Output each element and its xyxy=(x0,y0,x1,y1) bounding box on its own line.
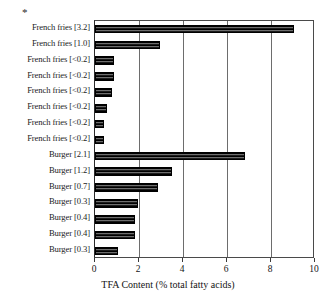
bar xyxy=(95,56,114,65)
gridline xyxy=(183,21,184,257)
x-tick xyxy=(182,258,183,262)
category-label: French fries [1.0] xyxy=(32,39,90,48)
x-tick-label: 6 xyxy=(224,264,229,274)
category-label: French fries [<0.2] xyxy=(27,71,90,80)
bar xyxy=(95,183,158,192)
category-label: Burger [0.7] xyxy=(49,182,90,191)
gridline xyxy=(271,21,272,257)
x-tick-label: 8 xyxy=(268,264,273,274)
category-label: Burger [0.3] xyxy=(49,197,90,206)
plot-area xyxy=(94,20,314,258)
category-axis-labels: French fries [3.2]French fries [1.0]Fren… xyxy=(0,20,92,258)
gridline xyxy=(227,21,228,257)
x-tick-label: 10 xyxy=(309,264,319,274)
bar xyxy=(95,247,118,256)
category-label: Burger [0.4] xyxy=(49,213,90,222)
bar xyxy=(95,215,135,224)
category-label: French fries [<0.2] xyxy=(27,102,90,111)
bar xyxy=(95,120,104,129)
bar xyxy=(95,152,245,161)
category-label: Burger [2.1] xyxy=(49,150,90,159)
x-axis-title: TFA Content (% total fatty acids) xyxy=(0,279,336,291)
x-tick xyxy=(138,258,139,262)
x-tick-label: 4 xyxy=(180,264,185,274)
category-label: French fries [<0.2] xyxy=(27,55,90,64)
category-label: French fries [<0.2] xyxy=(27,118,90,127)
category-label: Burger [0.4] xyxy=(49,229,90,238)
figure-bar-chart: * French fries [3.2]French fries [1.0]Fr… xyxy=(0,0,336,303)
gridline xyxy=(139,21,140,257)
x-tick xyxy=(314,258,315,262)
bar xyxy=(95,104,107,113)
x-tick xyxy=(270,258,271,262)
x-tick-label: 0 xyxy=(92,264,97,274)
bar xyxy=(95,167,172,176)
category-label: Burger [0.3] xyxy=(49,245,90,254)
category-label: French fries [3.2] xyxy=(32,23,90,32)
bar xyxy=(95,136,104,145)
bar xyxy=(95,25,294,34)
category-label: Burger [1.2] xyxy=(49,166,90,175)
asterisk-annotation: * xyxy=(22,7,28,18)
bar xyxy=(95,231,135,240)
x-tick xyxy=(226,258,227,262)
bar xyxy=(95,72,114,81)
bar xyxy=(95,199,138,208)
category-label: French fries [<0.2] xyxy=(27,86,90,95)
x-tick-label: 2 xyxy=(136,264,141,274)
bar xyxy=(95,41,160,50)
bar xyxy=(95,88,112,97)
x-tick xyxy=(94,258,95,262)
category-label: French fries [<0.2] xyxy=(27,134,90,143)
